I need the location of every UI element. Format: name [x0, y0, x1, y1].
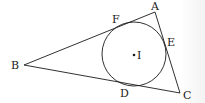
incenter-point: [133, 54, 136, 57]
side-ac: [155, 12, 180, 93]
label-b: B: [11, 59, 19, 72]
label-c: C: [183, 89, 191, 102]
label-a: A: [150, 0, 160, 13]
label-d: D: [120, 87, 129, 100]
side-bc: [24, 65, 180, 93]
label-f: F: [112, 13, 120, 26]
diagram-canvas: A B C I D E F: [0, 0, 205, 103]
label-i: I: [137, 49, 141, 62]
triangle-incircle-figure: A B C I D E F: [0, 0, 205, 103]
label-e: E: [167, 36, 175, 49]
side-ab: [24, 12, 155, 65]
